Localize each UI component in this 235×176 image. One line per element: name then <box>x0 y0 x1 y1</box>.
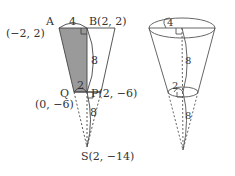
frustum-left-side <box>149 28 168 92</box>
right-angle-top-cone <box>176 28 182 34</box>
point-b-label: B(2, 2) <box>89 15 127 28</box>
dim-bottom-width: 2 <box>77 79 84 92</box>
dim-arc-lower-cone <box>183 92 187 150</box>
point-p-label: P(2, −6) <box>91 87 137 100</box>
diagram-canvas: A (−2, 2) B(2, 2) 4 8 2 P(2, −6) Q (0, −… <box>0 0 235 176</box>
left-figure <box>59 23 115 147</box>
dim-arc-lower <box>87 92 91 147</box>
axis-line <box>182 28 183 150</box>
point-q-coord: (0, −6) <box>35 98 74 111</box>
point-s-label: S(2, −14) <box>81 150 134 163</box>
right-figure <box>149 18 215 150</box>
dim-top-width: 4 <box>69 15 76 28</box>
cone-dim-height-lower: 8 <box>185 110 191 121</box>
cone-dim-top-radius: 4 <box>167 17 173 28</box>
dashed-left <box>74 92 87 147</box>
dim-height-lower: 8 <box>90 106 97 119</box>
dim-height-upper: 8 <box>91 54 98 67</box>
frustum-right-side <box>198 28 215 92</box>
point-a-coord: (−2, 2) <box>6 27 45 40</box>
cone-dim-height-upper: 8 <box>185 55 191 66</box>
diagram: A (−2, 2) B(2, 2) 4 8 2 P(2, −6) Q (0, −… <box>0 0 235 176</box>
point-a-label: A <box>45 15 55 28</box>
cone-dim-bottom-radius: 2 <box>172 80 178 91</box>
cone-left-dashed <box>168 92 183 150</box>
